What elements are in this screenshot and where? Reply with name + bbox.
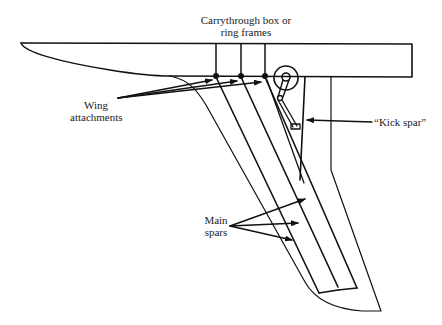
main-spars-label-line2: spars xyxy=(202,226,230,238)
wing-attachments-arrows xyxy=(118,80,261,98)
wing-structure-diagram: Carrythrough box or ring frames Wing att… xyxy=(0,0,442,325)
main-spars-arrows xyxy=(230,199,305,240)
ring-frames xyxy=(216,44,265,76)
diagram-drawing xyxy=(0,0,442,325)
kick-spar-arrow xyxy=(307,120,372,122)
kick-spar-label: “Kick spar” xyxy=(374,116,426,128)
carrythrough-label: Carrythrough box or ring frames xyxy=(185,14,307,38)
carrythrough-label-line1: Carrythrough box or xyxy=(185,14,307,26)
main-spars-label-line1: Main xyxy=(202,214,230,226)
wing-attachments-label: Wing attachments xyxy=(70,99,122,123)
main-spars-label: Main spars xyxy=(202,214,230,238)
wing-attachments-label-line1: Wing xyxy=(70,99,122,111)
carrythrough-label-line2: ring frames xyxy=(185,26,307,38)
fin-outline xyxy=(170,76,381,311)
pivot-ring xyxy=(274,66,300,129)
wing-attachments-label-line2: attachments xyxy=(70,111,122,123)
kick-spar-label-text: “Kick spar” xyxy=(374,116,426,128)
